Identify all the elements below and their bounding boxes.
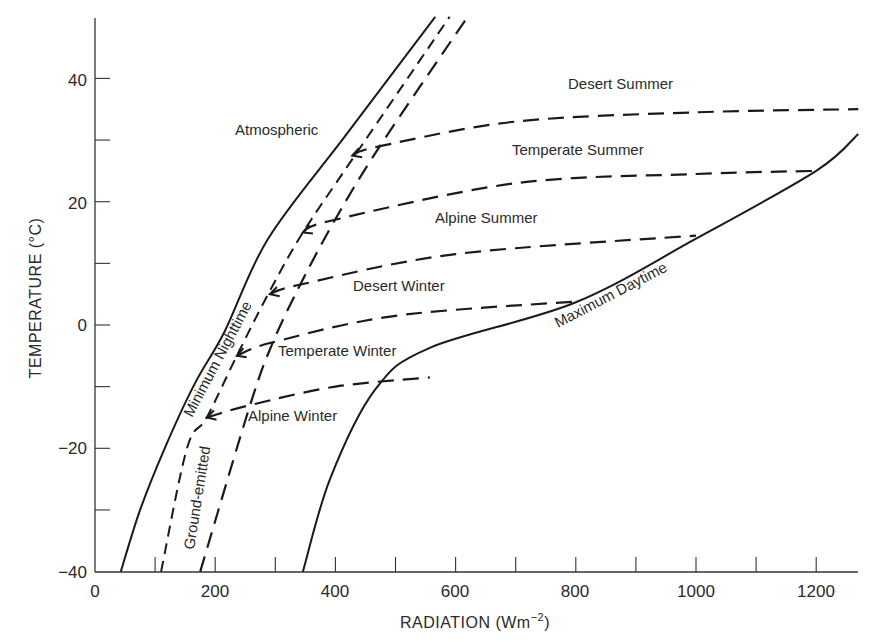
radiation-temperature-chart: 0 200 400 600 800 1000 1200 40 20 0 −20 … — [0, 0, 876, 642]
x-tick-label: 200 — [201, 582, 229, 601]
label-temperate-winter: Temperate Winter — [278, 342, 396, 359]
x-axis-title: RADIATION (Wm−2) — [400, 611, 550, 631]
label-alpine-winter: Alpine Winter — [248, 407, 337, 424]
axes — [95, 18, 858, 572]
curve-temperate-summer — [303, 171, 816, 233]
y-tick-label: −40 — [58, 563, 87, 582]
label-ground-emitted: Ground-emitted — [180, 445, 213, 551]
label-maximum-daytime: Maximum Daytime — [552, 258, 670, 330]
label-alpine-summer: Alpine Summer — [435, 209, 538, 226]
y-ticks — [95, 78, 110, 510]
x-ticks — [155, 557, 816, 572]
y-tick-labels: 40 20 0 −20 −40 — [58, 71, 87, 582]
y-tick-label: −20 — [58, 439, 87, 458]
x-tick-labels: 0 200 400 600 800 1000 1200 — [90, 582, 835, 601]
label-atmospheric: Atmospheric — [235, 121, 319, 138]
curve-atmospheric — [121, 17, 435, 572]
x-tick-label: 400 — [321, 582, 349, 601]
label-desert-summer: Desert Summer — [568, 75, 673, 92]
x-tick-label: 0 — [90, 582, 99, 601]
y-tick-label: 20 — [68, 194, 87, 213]
y-tick-label: 0 — [78, 316, 87, 335]
y-tick-label: 40 — [68, 71, 87, 90]
curves — [121, 17, 859, 572]
label-desert-winter: Desert Winter — [353, 277, 445, 294]
y-axis-title: TEMPERATURE (°C) — [27, 218, 44, 379]
x-tick-label: 600 — [441, 582, 469, 601]
label-temperate-summer: Temperate Summer — [512, 141, 644, 158]
curve-labels: Atmospheric Desert Summer Temperate Summ… — [180, 75, 673, 550]
x-tick-label: 1200 — [797, 582, 835, 601]
x-tick-label: 800 — [561, 582, 589, 601]
label-minimum-nighttime: Minimum Nighttime — [180, 298, 255, 419]
x-tick-label: 1000 — [677, 582, 715, 601]
